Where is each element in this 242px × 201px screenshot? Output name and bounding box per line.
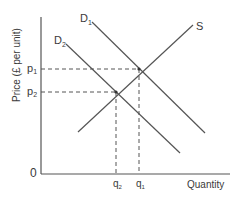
equilibrium-point-2 (114, 90, 117, 93)
s-label: S (196, 20, 203, 32)
y-axis-label: Price (£ per unit) (11, 28, 22, 102)
q1-label: q1 (136, 178, 146, 190)
d1-label: D1 (80, 12, 92, 26)
equilibrium-point-1 (137, 67, 140, 70)
supply-demand-diagram: D1 D2 S p1 p2 q2 q1 0 Quantity Price (£ … (0, 0, 242, 201)
x-axis-label: Quantity (187, 179, 224, 190)
demand-curve-d2 (66, 44, 180, 153)
demand-curve-d1 (92, 22, 205, 133)
q2-label: q2 (113, 178, 123, 190)
p2-label: p2 (27, 85, 37, 98)
supply-curve-s (78, 25, 193, 132)
origin-label: 0 (30, 166, 37, 180)
p1-label: p1 (27, 62, 37, 75)
d2-label: D2 (54, 34, 66, 48)
